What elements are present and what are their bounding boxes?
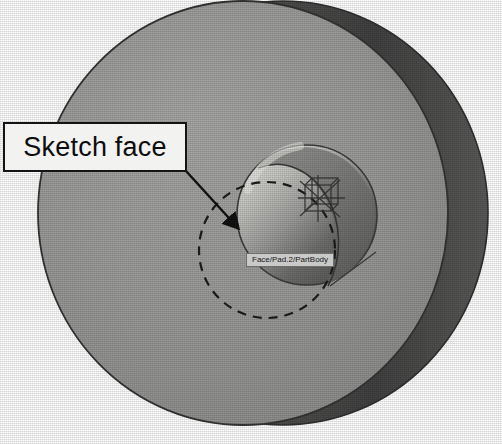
face-selection-tooltip-label: Face/Pad.2/PartBody xyxy=(252,256,328,264)
sketch-face-callout-label: Sketch face xyxy=(23,134,166,161)
sketch-face-callout: Sketch face xyxy=(3,122,187,172)
cad-viewport: Sketch face Face/Pad.2/PartBody xyxy=(0,0,502,444)
cad-3d-scene xyxy=(0,0,502,444)
face-selection-tooltip: Face/Pad.2/PartBody xyxy=(246,253,334,267)
